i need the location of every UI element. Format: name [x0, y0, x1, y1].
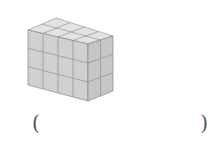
left-parenthesis: ( — [32, 108, 40, 138]
cuboid-icon — [0, 0, 220, 110]
right-parenthesis: ) — [200, 108, 208, 138]
answer-blank[interactable] — [46, 112, 194, 134]
answer-area: ( ) — [30, 108, 212, 138]
cube-stack-figure — [0, 0, 220, 110]
